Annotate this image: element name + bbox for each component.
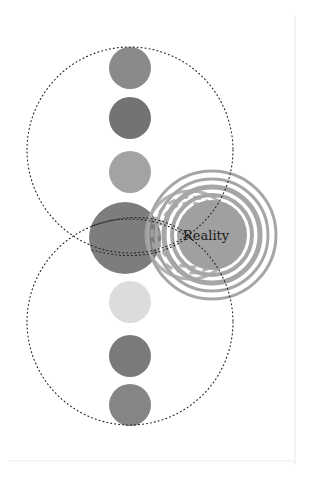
- circle-4-large: [89, 202, 161, 274]
- diagram-page: Reality: [0, 0, 310, 480]
- circle-5-light: [109, 281, 151, 323]
- reality-diagram: Reality: [0, 0, 310, 480]
- circle-1: [109, 47, 151, 89]
- reality-label: Reality: [183, 228, 230, 243]
- circle-6: [109, 335, 151, 377]
- circle-2: [109, 97, 151, 139]
- circle-3: [109, 151, 151, 193]
- circle-7: [109, 384, 151, 426]
